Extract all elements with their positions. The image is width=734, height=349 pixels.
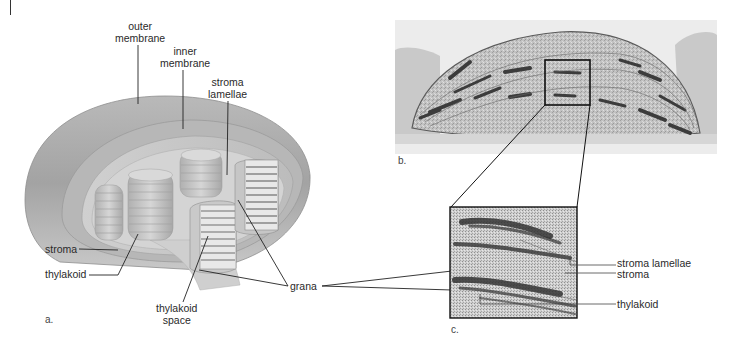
label-inner-membrane: inner membrane [160,45,210,69]
label-outer-membrane: outer membrane [115,20,165,44]
panel-letter-c: c. [451,324,459,335]
label-outer-membrane-line2: membrane [115,32,165,44]
leader-grana-to-c-1 [322,271,452,286]
label-thylakoid: thylakoid [45,268,86,280]
label-c-thylakoid: thylakoid [617,298,658,310]
label-inner-membrane-line1: inner [160,45,210,57]
label-stroma-lamellae-line2: lamellae [208,88,247,100]
label-inner-membrane-line2: membrane [160,57,210,69]
label-outer-membrane-line1: outer [115,20,165,32]
granum-stack-center-left [128,169,173,240]
label-stroma-lamellae-line1: stroma [208,76,247,88]
label-thylakoid-space-line1: thylakoid [156,302,197,314]
granum-cut-front [190,201,236,273]
label-grana: grana [290,280,317,292]
granum-stack-left [95,185,123,240]
panel-a-illustration [0,0,734,349]
label-stroma: stroma [45,243,77,255]
label-thylakoid-space: thylakoid space [156,302,197,326]
leader-grana-to-c-2 [322,286,452,290]
label-c-stroma: stroma [617,268,649,280]
granum-stack-back-center [180,149,222,197]
granum-cut-right [235,160,278,235]
label-stroma-lamellae: stroma lamellae [208,76,247,100]
panel-letter-b: b. [398,155,406,166]
label-thylakoid-space-line2: space [156,314,197,326]
panel-b-micrograph [395,20,717,154]
panel-c-micrograph [450,207,577,318]
panel-letter-a: a. [45,314,53,325]
